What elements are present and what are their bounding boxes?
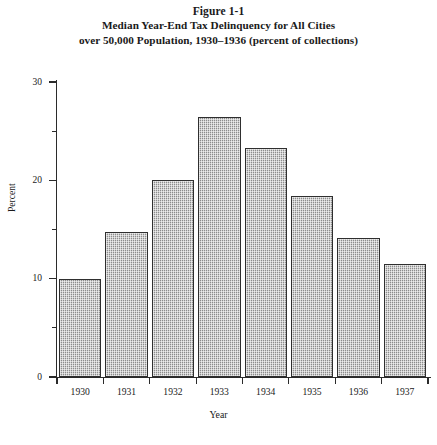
- x-tick-label-1930: 1930: [58, 386, 102, 398]
- bar-1935: [291, 196, 333, 377]
- y-axis-title: Percent: [6, 183, 17, 212]
- bar-1937: [384, 264, 426, 377]
- x-tick-5: [288, 378, 289, 384]
- x-tick-label-1937: 1937: [383, 386, 427, 398]
- bar-chart: 0102030 19301931193219331934193519361937…: [0, 0, 437, 445]
- bar-1936: [337, 238, 379, 377]
- y-tick-30: [49, 81, 57, 82]
- x-tick-1: [103, 378, 104, 384]
- x-tick-6: [335, 378, 336, 384]
- x-tick-4: [242, 378, 243, 384]
- y-tick-label-30: 30: [16, 77, 42, 87]
- y-tick-10: [49, 278, 57, 279]
- y-tick-label-10: 10: [16, 273, 42, 283]
- x-tick-label-1931: 1931: [105, 386, 149, 398]
- bar-1933: [198, 117, 240, 377]
- x-tick-label-1934: 1934: [244, 386, 288, 398]
- x-tick-label-1933: 1933: [197, 386, 241, 398]
- plot-area: [57, 80, 428, 377]
- x-tick-2: [149, 378, 150, 384]
- x-tick-7: [381, 378, 382, 384]
- x-tick-0: [56, 378, 57, 384]
- x-tick-3: [196, 378, 197, 384]
- x-axis-line: [50, 377, 431, 378]
- bar-1934: [245, 148, 287, 377]
- bar-1932: [152, 180, 194, 377]
- x-tick-label-1936: 1936: [336, 386, 380, 398]
- bar-1931: [105, 232, 147, 377]
- x-axis-title: Year: [0, 409, 437, 420]
- y-tick-label-20: 20: [16, 175, 42, 185]
- x-tick-label-1932: 1932: [151, 386, 195, 398]
- bar-1930: [59, 279, 101, 377]
- y-tick-label-0: 0: [16, 372, 42, 382]
- x-tick-8: [427, 378, 428, 384]
- y-tick-20: [49, 180, 57, 181]
- x-tick-label-1935: 1935: [290, 386, 334, 398]
